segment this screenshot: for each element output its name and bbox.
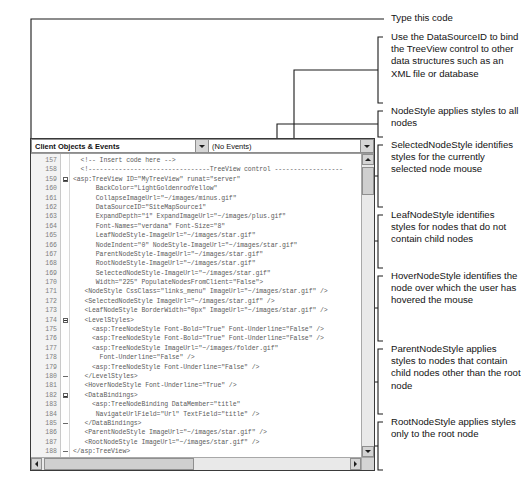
fold-marker[interactable] [61,419,69,428]
code-line[interactable]: <asp:TreeNodeStyle ImageUrl="~/images/fo… [73,344,361,353]
code-line[interactable]: DataSourceID="SiteMapSource1" [73,203,361,212]
line-number-gutter: 1571581591601611621631641651661671681691… [31,154,61,457]
fold-marker [61,363,69,372]
line-number: 160 [31,184,60,193]
fold-marker[interactable] [61,372,69,381]
annotation-hovernodestyle: HoverNodeStyle identifies the node over … [391,270,519,307]
line-number: 183 [31,400,60,409]
collapse-icon[interactable] [63,177,68,182]
fold-marker [61,156,69,165]
line-number: 185 [31,419,60,428]
code-folding-gutter[interactable] [61,154,70,457]
code-line[interactable]: <asp:TreeNodeStyle Font-Bold="True" Font… [73,325,361,334]
collapse-icon[interactable] [63,393,68,398]
code-line[interactable]: NodeIndent="0" NodeStyle-ImageUrl="~/ima… [73,241,361,250]
line-number: 178 [31,353,60,362]
client-objects-and-events-dropdown[interactable]: Client Objects & Events [31,139,209,153]
vertical-scrollbar[interactable] [361,154,374,457]
line-number: 180 [31,372,60,381]
fold-marker [61,334,69,343]
code-editor-window: Client Objects & Events (No Events) 1571… [30,138,375,471]
line-number: 168 [31,259,60,268]
fold-marker [61,231,69,240]
code-line[interactable]: ParentNodeStyle-ImageUrl="~/images/star.… [73,250,361,259]
code-line[interactable]: <ParentNodeStyle ImageUrl="~/images/star… [73,428,361,437]
fold-marker [61,410,69,419]
code-line[interactable]: <LevelStyles> [73,316,361,325]
code-line[interactable]: RootNodeStyle-ImageUrl="~/images/star.gi… [73,259,361,268]
line-number: 176 [31,334,60,343]
chevron-down-icon[interactable] [360,140,373,152]
annotation-type-this-code: Type this code [391,12,517,24]
code-line[interactable]: <SelectedNodeStyle ImageUrl="~/images/st… [73,297,361,306]
fold-marker [61,250,69,259]
fold-marker [61,306,69,315]
code-line[interactable]: <asp:TreeNodeBinding DataMember="title" [73,400,361,409]
code-line[interactable]: <DataBindings> [73,391,361,400]
code-text-area[interactable]: 1571581591601611621631641651661671681691… [31,154,361,457]
code-line[interactable]: NavigateUrlField="Url" TextField="title"… [73,410,361,419]
fold-end-icon [63,376,68,377]
fold-marker[interactable] [61,175,69,184]
line-number: 179 [31,363,60,372]
code-line[interactable]: <!--------------------------------TreeVi… [73,165,361,174]
fold-marker[interactable] [61,391,69,400]
fold-marker [61,353,69,362]
fold-end-icon [63,423,68,424]
code-line[interactable]: Font-Names="verdana" Font-Size="8" [73,222,361,231]
code-line[interactable]: <RootNodeStyle ImageUrl="~/images/star.g… [73,438,361,447]
collapse-icon[interactable] [63,318,68,323]
fold-marker [61,325,69,334]
events-dropdown[interactable]: (No Events) [209,139,374,153]
vertical-scroll-track[interactable] [362,195,374,446]
horizontal-scrollbar[interactable] [31,457,374,470]
code-line[interactable]: SelectedNodeStyle-ImageUrl="~/images/sta… [73,269,361,278]
fold-marker[interactable] [61,316,69,325]
line-number: 167 [31,250,60,259]
horizontal-scroll-thumb[interactable] [44,458,194,470]
scroll-up-button[interactable] [362,154,374,165]
code-line[interactable]: CollapseImageUrl="~/images/minus.gif" [73,194,361,203]
scroll-left-button[interactable] [31,458,42,470]
line-number: 175 [31,325,60,334]
line-number: 181 [31,381,60,390]
chevron-down-icon[interactable] [195,140,208,152]
horizontal-scroll-track[interactable] [194,458,350,470]
code-line[interactable]: </LevelStyles> [73,372,361,381]
code-line[interactable]: BackColor="LightGoldenrodYellow" [73,184,361,193]
source-code-lines[interactable]: <!-- Insert code here --> <!------------… [70,154,361,457]
code-line[interactable]: <LeafNodeStyle BorderWidth="0px" ImageUr… [73,306,361,315]
code-line[interactable]: ExpandDepth="1" ExpandImageUrl="~/images… [73,212,361,221]
fold-marker [61,400,69,409]
events-dropdown-value: (No Events) [209,140,252,153]
fold-marker [61,203,69,212]
line-number: 184 [31,410,60,419]
fold-marker[interactable] [61,447,69,456]
line-number: 174 [31,316,60,325]
fold-marker [61,194,69,203]
code-line[interactable]: Width="225" PopulateNodesFromClient="Fal… [73,278,361,287]
line-number: 188 [31,447,60,456]
code-line[interactable]: </DataBindings> [73,419,361,428]
line-number: 170 [31,278,60,287]
code-region: 1571581591601611621631641651661671681691… [31,154,374,457]
code-line[interactable]: <HoverNodeStyle Font-Underline="True" /> [73,381,361,390]
scroll-down-button[interactable] [362,446,374,457]
scrollbar-corner [361,458,374,470]
code-line[interactable]: <asp:TreeNodeStyle Font-Bold="True" Font… [73,334,361,343]
vertical-scroll-thumb[interactable] [362,167,374,195]
annotation-leafnodestyle: LeafNodeStyle identifies styles for node… [391,209,519,246]
code-line[interactable]: <asp:TreeView ID="MyTreeView" runat="ser… [73,175,361,184]
fold-end-icon [63,451,68,452]
code-line[interactable]: <!-- Insert code here --> [73,156,361,165]
code-line[interactable]: <NodeStyle CssClass="links_menu" ImageUr… [73,287,361,296]
code-line[interactable] [73,457,361,458]
fold-marker [61,278,69,287]
annotation-selectednodestyle: SelectedNodeStyle identifies styles for … [391,139,519,176]
code-line[interactable]: </asp:TreeView> [73,447,361,456]
code-line[interactable]: LeafNodeStyle-ImageUrl="~/images/star.gi… [73,231,361,240]
code-line[interactable]: Font-Underline="False" /> [73,353,361,362]
fold-marker [61,438,69,447]
code-line[interactable]: <asp:TreeNodeStyle Font-Underline="False… [73,363,361,372]
scroll-right-button[interactable] [350,458,361,470]
